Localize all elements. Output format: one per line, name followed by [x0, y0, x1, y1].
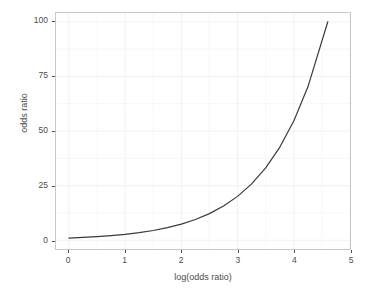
- x-tick-mark: [294, 250, 295, 253]
- y-tick-label: 75: [8, 70, 48, 80]
- x-tick-label: 4: [279, 255, 309, 265]
- x-tick-label: 5: [336, 255, 366, 265]
- y-tick-mark: [52, 186, 55, 187]
- y-tick-label: 100: [8, 15, 48, 25]
- y-tick-mark: [52, 131, 55, 132]
- y-tick-mark: [52, 76, 55, 77]
- y-tick-label: 25: [8, 180, 48, 190]
- chart-container: odds ratio log(odds ratio) 0255075100012…: [0, 0, 366, 296]
- x-tick-label: 0: [53, 255, 83, 265]
- x-tick-label: 1: [110, 255, 140, 265]
- y-tick-mark: [52, 21, 55, 22]
- x-tick-mark: [181, 250, 182, 253]
- data-layer: [56, 13, 350, 249]
- y-tick-mark: [52, 241, 55, 242]
- x-axis-label: log(odds ratio): [55, 272, 351, 282]
- x-tick-label: 2: [166, 255, 196, 265]
- y-tick-label: 50: [8, 125, 48, 135]
- x-tick-mark: [351, 250, 352, 253]
- y-tick-label: 0: [8, 235, 48, 245]
- x-tick-label: 3: [223, 255, 253, 265]
- x-tick-mark: [238, 250, 239, 253]
- plot-panel: [55, 12, 351, 250]
- x-tick-mark: [125, 250, 126, 253]
- x-tick-mark: [68, 250, 69, 253]
